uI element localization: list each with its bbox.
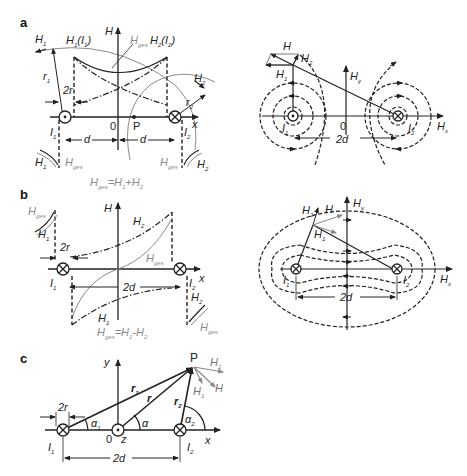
hges-lower-left: Hges bbox=[65, 156, 83, 170]
conductor-i2-b bbox=[174, 263, 186, 275]
h1-label: H1 bbox=[35, 33, 46, 47]
panel-c: c y x z 0 P H2 H H1 α1 α α2 r1 r r2 bbox=[20, 351, 223, 464]
alpha2-label: α2 bbox=[185, 413, 195, 427]
hges-label-top: Hges bbox=[130, 34, 148, 48]
conductor-i1-b-right bbox=[291, 264, 301, 274]
i1-label-c: I1 bbox=[48, 441, 54, 455]
conductor-i2-c bbox=[174, 424, 186, 436]
point-p bbox=[132, 115, 136, 119]
h1-bottom-b: H1 bbox=[98, 312, 109, 326]
h-vector-b bbox=[313, 215, 342, 225]
alpha1-label: α1 bbox=[91, 417, 101, 431]
r-label-c: r bbox=[147, 392, 152, 404]
conductor-i1-a-right bbox=[288, 111, 298, 121]
panel-label-a: a bbox=[20, 15, 28, 30]
h1-lower-label: H1 bbox=[35, 156, 46, 170]
r1-line bbox=[53, 49, 63, 117]
h2-label-c: H2 bbox=[210, 356, 222, 370]
distance-b-left: 2d bbox=[122, 281, 136, 293]
d-right-label: d bbox=[140, 133, 147, 145]
h-label-c: H bbox=[215, 382, 223, 394]
hx-label-b: Hx bbox=[440, 273, 452, 287]
i1-label-b: I1 bbox=[50, 277, 56, 291]
y-axis-label-c: y bbox=[103, 356, 111, 368]
i1-label-a-right: I1 bbox=[282, 122, 288, 136]
h2-bottom-b: H2 bbox=[191, 291, 203, 305]
h1-curve-b bbox=[72, 288, 172, 325]
h2-label-b-right: H2 bbox=[302, 204, 314, 218]
conductor-i2-b-right bbox=[392, 264, 402, 274]
h1-top-b: H1 bbox=[38, 228, 49, 242]
panel-a-right: Hy Hx 0 H H1 H2 I1 I2 2d bbox=[260, 40, 449, 165]
h-axis-label-b: H bbox=[104, 202, 112, 214]
i2-label-b: I2 bbox=[189, 277, 196, 291]
h1-vector-c bbox=[194, 367, 202, 383]
i2-label-c: I2 bbox=[187, 441, 194, 455]
formula-a: Hges=H1+H2 bbox=[90, 176, 144, 190]
hy-label: Hy bbox=[350, 70, 362, 84]
hges-leader bbox=[112, 44, 133, 68]
hy-label-b: Hy bbox=[353, 197, 365, 211]
conductor-i1-out bbox=[59, 111, 71, 123]
h-vector bbox=[271, 54, 293, 65]
two-r-label-b: 2r bbox=[59, 241, 71, 253]
r2-label: r2 bbox=[186, 96, 194, 110]
distance-b-right: 2d bbox=[339, 291, 353, 303]
panel-b-left: b H x bbox=[20, 187, 218, 340]
conductor-i2-in bbox=[169, 111, 181, 123]
panel-b-right: Hy Hx H2 H H1 I1 I2 2d bbox=[259, 197, 452, 330]
h2-lower-label: H2 bbox=[197, 158, 209, 172]
conductor-i2-a-right bbox=[393, 111, 403, 121]
i2-label-a-right: I2 bbox=[408, 122, 415, 136]
hges-top-left-b: Hges bbox=[28, 205, 46, 219]
magnetic-field-diagram: a H x bbox=[0, 0, 467, 476]
point-p-label: P bbox=[133, 120, 140, 132]
two-r-label: 2r bbox=[62, 84, 74, 96]
h1-label-a-right: H1 bbox=[276, 68, 287, 82]
hges-lower-right: Hges bbox=[160, 156, 178, 170]
h2-vector bbox=[293, 55, 298, 65]
panel-label-c: c bbox=[20, 351, 27, 366]
h1-label-b-right: H1 bbox=[314, 228, 325, 242]
two-r-label-c: 2r bbox=[57, 401, 69, 413]
r1-label-c: r1 bbox=[131, 382, 139, 396]
h-axis-label: H bbox=[105, 25, 113, 37]
r1-label: r1 bbox=[43, 70, 50, 84]
i2-label: I2 bbox=[184, 126, 191, 140]
h2-i2-label: H2(I2) bbox=[150, 34, 175, 48]
r1-vector bbox=[63, 368, 192, 430]
origin-label: 0 bbox=[110, 120, 116, 132]
conductor-i1-b bbox=[57, 263, 69, 275]
i2-label-b-right: I2 bbox=[403, 274, 410, 288]
h2-curve-b bbox=[70, 212, 172, 257]
conductor-z-c bbox=[112, 424, 124, 436]
d-left-label: d bbox=[84, 133, 91, 145]
h2-label: H2 bbox=[194, 72, 206, 86]
h1-label-c: H1 bbox=[193, 385, 204, 399]
x-axis-label: x bbox=[191, 118, 198, 130]
hges-bottom-right-b: Hges bbox=[200, 321, 218, 335]
h1-i1-label: H1(I1) bbox=[66, 34, 91, 48]
h2-label-a-right: H2 bbox=[301, 52, 313, 66]
x-axis-label-b: x bbox=[198, 272, 205, 284]
point-p-c: P bbox=[190, 351, 198, 365]
i1-label: I1 bbox=[50, 126, 56, 140]
h2-vector-b bbox=[313, 208, 318, 225]
hx-label: Hx bbox=[437, 120, 449, 134]
hges-mid-b: Hges bbox=[146, 252, 164, 266]
conductor-i1-c bbox=[57, 424, 69, 436]
i1-label-b-right: I1 bbox=[283, 274, 289, 288]
x-axis-label-c: x bbox=[204, 434, 211, 446]
formula-b: Hges=H1-H2 bbox=[97, 326, 148, 340]
h-label-a-right: H bbox=[283, 40, 291, 52]
distance-c: 2d bbox=[112, 452, 126, 464]
h2-top-b: H2 bbox=[133, 215, 145, 229]
distance-a-right: 2d bbox=[335, 133, 349, 145]
panel-a-left: a H x bbox=[20, 15, 215, 190]
origin-label-a-right: 0 bbox=[340, 120, 346, 132]
panel-label-b: b bbox=[20, 187, 28, 202]
h-label-b-right: H bbox=[325, 203, 333, 215]
r2-label-c: r2 bbox=[174, 395, 182, 409]
alpha-label: α bbox=[142, 417, 149, 429]
origin-label-c: 0 bbox=[106, 433, 112, 445]
